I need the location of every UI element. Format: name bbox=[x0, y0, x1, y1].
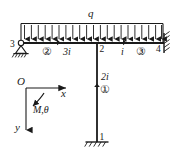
node-label-3: 3 bbox=[10, 39, 15, 49]
member-1-circled-label: ① bbox=[100, 83, 110, 95]
member-2-circled-label: ② bbox=[42, 45, 52, 57]
axis-y-label: y bbox=[14, 121, 20, 133]
load-label-q: q bbox=[88, 7, 94, 19]
support-node-1-fixed bbox=[85, 142, 109, 147]
axis-x-label: x bbox=[60, 87, 66, 99]
member-2-stiffness: 3i bbox=[62, 46, 71, 57]
axis-origin-label: O bbox=[17, 75, 25, 87]
member-3-stiffness: i bbox=[121, 46, 124, 57]
node-label-4: 4 bbox=[156, 44, 161, 54]
structural-frame-diagram: q 3 2 4 1 ② 3i i ③ 2i ① O x y M,θ bbox=[0, 0, 186, 164]
support-node-4-fixed bbox=[164, 32, 170, 54]
node-label-2: 2 bbox=[100, 44, 105, 54]
load-arrow-group bbox=[25, 25, 162, 39]
member-3-circled-label: ③ bbox=[136, 45, 146, 57]
member-1-stiffness: 2i bbox=[101, 71, 109, 82]
moment-rotation-label: M,θ bbox=[32, 104, 49, 115]
distributed-load-q bbox=[21, 24, 163, 44]
node-label-1: 1 bbox=[100, 132, 105, 142]
